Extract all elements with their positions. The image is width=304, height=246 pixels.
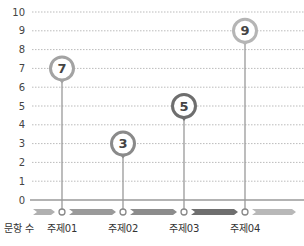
band-arrow-segment — [191, 209, 238, 215]
row-label: 문항 수 — [4, 223, 34, 234]
lollipop-series: 7359 — [51, 19, 257, 215]
band-node-circle — [120, 209, 126, 215]
x-category-label: 주제02 — [108, 223, 139, 234]
y-tick-label: 10 — [12, 7, 25, 18]
lollipop-chart: 012345678910 7359 주제01주제02주제03주제04 문항 수 — [0, 0, 304, 246]
band-arrow-segment — [252, 209, 296, 215]
value-label: 7 — [57, 61, 66, 76]
band-node-circle — [242, 209, 248, 215]
y-tick-label: 9 — [19, 25, 25, 36]
band-node-circle — [59, 209, 65, 215]
lollipop-item: 3 — [112, 132, 135, 215]
x-category-label: 주제04 — [230, 223, 261, 234]
value-label: 5 — [179, 99, 188, 114]
x-axis-categories: 주제01주제02주제03주제04 — [47, 223, 261, 234]
band-arrow-segment — [69, 209, 116, 215]
lollipop-item: 7 — [51, 57, 74, 215]
lollipop-item: 5 — [173, 95, 196, 216]
value-label: 3 — [118, 136, 127, 151]
y-tick-label: 1 — [19, 176, 25, 187]
y-axis-ticks: 012345678910 — [12, 7, 25, 206]
lollipop-item: 9 — [234, 19, 257, 215]
y-tick-label: 5 — [19, 101, 25, 112]
value-label: 9 — [240, 23, 249, 38]
y-tick-label: 6 — [19, 82, 25, 93]
y-tick-label: 4 — [19, 119, 25, 130]
x-category-label: 주제03 — [169, 223, 200, 234]
timeline-arrow-band — [33, 209, 296, 215]
band-node-circle — [181, 209, 187, 215]
y-tick-label: 2 — [19, 157, 25, 168]
x-category-label: 주제01 — [47, 223, 78, 234]
y-tick-label: 8 — [19, 44, 25, 55]
y-tick-label: 7 — [19, 63, 25, 74]
y-tick-label: 3 — [19, 138, 25, 149]
band-arrow-segment — [33, 209, 55, 215]
gridlines — [32, 12, 304, 181]
y-tick-label: 0 — [19, 195, 25, 206]
band-arrow-segment — [130, 209, 177, 215]
